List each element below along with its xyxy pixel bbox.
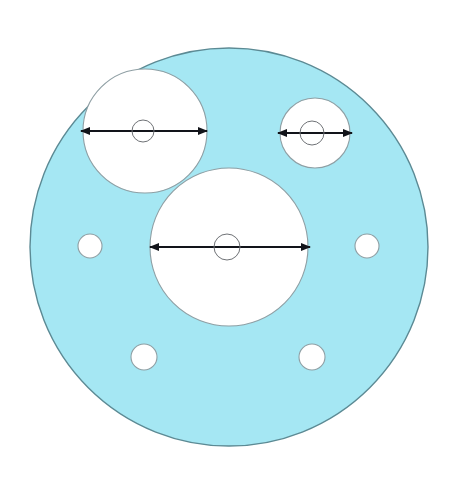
gasket-diagram	[0, 0, 455, 478]
bolt-hole-bottom-right-circle	[299, 344, 325, 370]
bolt-hole-right-circle	[355, 234, 379, 258]
bolt-hole-left-circle	[78, 234, 102, 258]
bolt-hole-bottom-left-circle	[131, 344, 157, 370]
diagram-root	[0, 0, 455, 478]
